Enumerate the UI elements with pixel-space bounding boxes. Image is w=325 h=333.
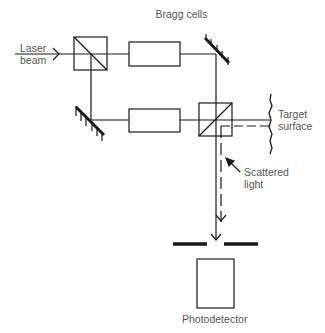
bragg-cell-1 [129, 42, 180, 66]
laser-label-line2: beam [20, 54, 46, 66]
target-label-line2: surface [278, 120, 312, 132]
scattered-light-pointer-icon [226, 158, 240, 172]
target-surface [269, 94, 272, 154]
mirror-bottom-left [76, 106, 104, 141]
bragg-cell-2 [129, 109, 180, 132]
scattered-light-label: Scattered light [244, 166, 289, 190]
laser-beam-label: Laser beam [20, 42, 46, 66]
photodetector-label: Photodetector [182, 313, 247, 325]
scattered-label-line1: Scattered [244, 166, 289, 178]
photodetector [197, 259, 234, 308]
laser-label-line1: Laser [20, 42, 46, 54]
mirror-top-right [205, 34, 229, 65]
target-surface-label: Target surface [278, 108, 312, 132]
target-label-line1: Target [278, 108, 312, 120]
scattered-label-line2: light [244, 178, 289, 190]
bragg-cells-label: Bragg cells [0, 8, 325, 20]
